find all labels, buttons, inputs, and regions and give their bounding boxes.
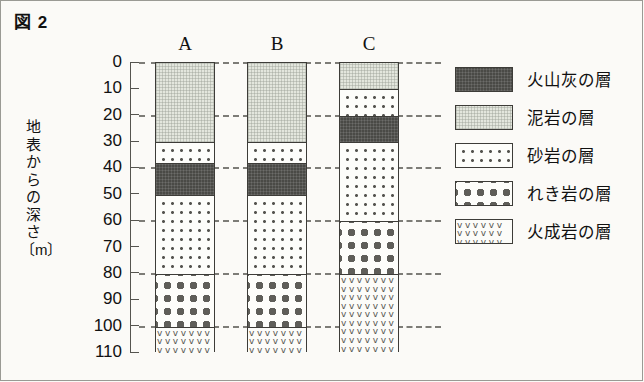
layer-sand[interactable] — [340, 89, 398, 115]
axis-tick-label: 0 — [66, 53, 122, 70]
layer-sand[interactable] — [248, 195, 306, 274]
gridline — [397, 273, 441, 275]
layer-ash[interactable] — [248, 163, 306, 195]
axis-tick-label: 110 — [66, 343, 122, 360]
layer-mud[interactable] — [340, 63, 398, 89]
axis-tick-label: 50 — [66, 185, 122, 202]
axis-tick-label: 60 — [66, 211, 122, 228]
legend-swatch-cong — [455, 181, 513, 206]
y-axis-label-char: さ — [20, 223, 46, 241]
column-header-a: A — [155, 33, 215, 55]
column-header-c: C — [339, 33, 399, 55]
layer-cong[interactable] — [248, 274, 306, 327]
gridline — [305, 326, 341, 328]
axis-tick — [130, 220, 139, 221]
axis-tick-label: 40 — [66, 158, 122, 175]
legend-swatch-sand — [455, 143, 513, 168]
layer-sand[interactable] — [156, 142, 214, 163]
layer-sand[interactable] — [156, 195, 214, 274]
axis-tick-label: 10 — [66, 79, 122, 96]
gridline — [213, 115, 249, 117]
legend-item-ign[interactable]: vvvvvvvvvvvvvvvvvvvvvvvvvvvvvvvvvvvvvvvv… — [455, 212, 635, 250]
gridline — [397, 167, 441, 169]
layer-sand[interactable] — [248, 142, 306, 163]
axis-tick-label: 100 — [66, 317, 122, 334]
y-axis-label-char: 地 — [20, 118, 46, 136]
axis-tick — [130, 299, 139, 300]
borehole-column-b[interactable]: vvvvvvvvvvvvvvvvvvvvvvvvvvvvvvvvvvvvvvvv… — [247, 62, 307, 352]
axis-tick — [130, 325, 139, 326]
axis-tick-label: 30 — [66, 132, 122, 149]
gridline — [397, 115, 441, 117]
depth-axis-line — [130, 62, 131, 353]
legend: 火山灰の層泥岩の層砂岩の層れき岩の層vvvvvvvvvvvvvvvvvvvvvv… — [455, 60, 635, 250]
layer-mud[interactable] — [156, 63, 214, 142]
legend-label-cong: れき岩の層 — [527, 181, 612, 205]
legend-swatch-ign: vvvvvvvvvvvvvvvvvvvvvvvvvvvvvvvvvvvvvvvv… — [455, 219, 513, 244]
gridline — [305, 115, 341, 117]
y-axis-label: 地表からの深さ〔m〕 — [20, 118, 46, 258]
axis-tick-label: 20 — [66, 106, 122, 123]
column-header-b: B — [247, 33, 307, 55]
borehole-column-a[interactable]: vvvvvvvvvvvvvvvvvvvvvvvvvvvvvvvvvvvvvvvv… — [155, 62, 215, 352]
layer-ign[interactable]: vvvvvvvvvvvvvvvvvvvvvvvvvvvvvvvvvvvvvvvv… — [248, 327, 306, 353]
axis-tick — [130, 114, 139, 115]
gridline — [213, 167, 249, 169]
legend-item-ash[interactable]: 火山灰の層 — [455, 60, 635, 98]
axis-tick — [130, 167, 139, 168]
axis-tick — [130, 193, 139, 194]
axis-tick — [130, 246, 139, 247]
axis-tick-label: 70 — [66, 238, 122, 255]
legend-label-sand: 砂岩の層 — [527, 143, 595, 167]
legend-item-mud[interactable]: 泥岩の層 — [455, 98, 635, 136]
axis-tick-label: 90 — [66, 290, 122, 307]
axis-tick — [130, 141, 139, 142]
y-axis-label-char: 〔m〕 — [20, 241, 46, 259]
gridline — [305, 273, 341, 275]
legend-label-ign: 火成岩の層 — [527, 219, 612, 243]
axis-tick-label: 80 — [66, 264, 122, 281]
axis-tick — [130, 272, 139, 273]
gridline — [305, 220, 341, 222]
gridline — [305, 62, 341, 64]
legend-item-sand[interactable]: 砂岩の層 — [455, 136, 635, 174]
layer-ign[interactable]: vvvvvvvvvvvvvvvvvvvvvvvvvvvvvvvvvvvvvvvv… — [156, 327, 214, 353]
y-axis-label-char: 深 — [20, 206, 46, 224]
layer-ash[interactable] — [156, 163, 214, 195]
y-axis-label-char: ら — [20, 171, 46, 189]
gridline — [213, 62, 249, 64]
gridline — [397, 326, 441, 328]
legend-swatch-mud — [455, 105, 513, 130]
layer-ign[interactable]: vvvvvvvvvvvvvvvvvvvvvvvvvvvvvvvvvvvvvvvv… — [340, 274, 398, 353]
legend-item-cong[interactable]: れき岩の層 — [455, 174, 635, 212]
y-axis-label-char: 表 — [20, 136, 46, 154]
gridline — [397, 220, 441, 222]
legend-label-ash: 火山灰の層 — [527, 67, 612, 91]
y-axis-label-char: の — [20, 188, 46, 206]
layer-sand[interactable] — [340, 142, 398, 221]
layer-cong[interactable] — [156, 274, 214, 327]
layer-mud[interactable] — [248, 63, 306, 142]
gridline — [213, 326, 249, 328]
gridline — [397, 62, 441, 64]
legend-label-mud: 泥岩の層 — [527, 105, 595, 129]
layer-cong[interactable] — [340, 221, 398, 274]
legend-swatch-ash — [455, 67, 513, 92]
layer-ash[interactable] — [340, 116, 398, 142]
gridline — [305, 167, 341, 169]
borehole-column-c[interactable]: vvvvvvvvvvvvvvvvvvvvvvvvvvvvvvvvvvvvvvvv… — [339, 62, 399, 352]
axis-tick — [130, 352, 139, 353]
gridline — [213, 220, 249, 222]
axis-tick — [130, 88, 139, 89]
y-axis-label-char: か — [20, 153, 46, 171]
axis-tick — [130, 62, 139, 63]
gridline — [213, 273, 249, 275]
